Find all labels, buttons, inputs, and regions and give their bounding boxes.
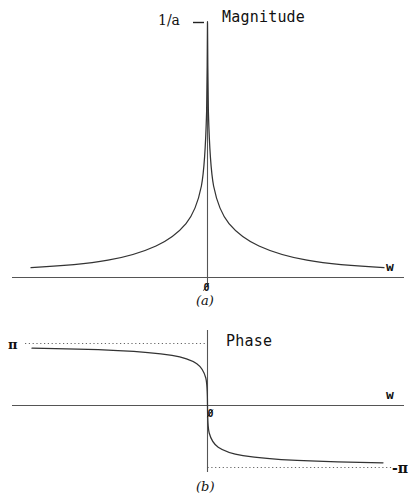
phase-panel: π -π w 0	[8, 330, 408, 476]
magnitude-title: Magnitude	[222, 10, 305, 25]
magnitude-peak-value-label: 1/a	[158, 13, 180, 27]
phase-lower-asymptote-label: -π	[392, 460, 408, 476]
phase-curve-left-branch	[32, 348, 208, 405]
magnitude-x-axis-label: w	[386, 259, 394, 274]
phase-curve-right-branch	[208, 406, 384, 463]
phase-title: Phase	[226, 334, 272, 349]
phase-panel-caption: (b)	[196, 480, 214, 493]
magnitude-panel: w 0	[12, 21, 404, 293]
phase-upper-asymptote-label: π	[8, 337, 18, 352]
phase-x-axis-label: w	[386, 387, 394, 402]
magnitude-panel-caption: (a)	[196, 294, 214, 307]
figure-svg: w 0 π -π w 0	[0, 0, 413, 501]
figure-container: w 0 π -π w 0	[0, 0, 413, 501]
